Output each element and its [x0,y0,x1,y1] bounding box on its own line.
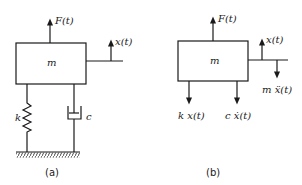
damper-label: c [86,111,92,122]
ground-hatch [16,153,80,158]
displacement-label-b: x(t) [266,34,284,45]
caption-b: (b) [206,167,220,178]
inertia-label: m ẍ(t) [262,84,292,95]
caption-a: (a) [45,167,59,178]
spring-mass-damper-diagram: m F(t) x(t) k c (a) m F(t) [0,0,302,185]
mass-label-a: m [47,57,56,68]
panel-a: m F(t) x(t) k c (a) [15,15,133,178]
spring-label: k [15,112,21,123]
force-label-a: F(t) [54,15,74,26]
panel-b: m F(t) x(t) m ẍ(t) k x(t) c ẋ(t) (b) [178,13,292,178]
spring-icon [23,84,31,152]
damper-force-label: c ẋ(t) [225,110,251,121]
displacement-label-a: x(t) [115,36,133,47]
spring-force-label: k x(t) [178,110,205,121]
force-label-b: F(t) [217,13,237,24]
damper-icon [68,84,81,152]
mass-label-b: m [210,55,219,66]
